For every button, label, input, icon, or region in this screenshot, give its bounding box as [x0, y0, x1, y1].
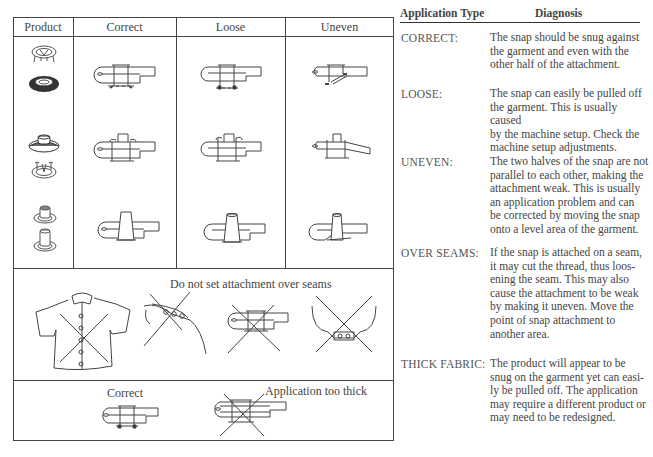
post-snap-stud-icon [32, 204, 58, 224]
text-line: the garment. This is usually caused [490, 101, 650, 128]
text-line: may need to be redesigned. [490, 411, 650, 425]
type-uneven: UNEVEN: [401, 156, 453, 168]
post-snap-post-icon [32, 228, 58, 252]
text-line: an application problem and can [490, 196, 650, 210]
uneven-post-snap-diagram [305, 214, 375, 246]
type-over-seams: OVER SEAMS: [401, 247, 479, 259]
sport-snap-prong-icon [30, 44, 58, 64]
loose-ring-snap-diagram [196, 134, 266, 164]
text-line: other half of the attachment. [490, 58, 650, 72]
text-line: by the machine setup. Check the [490, 128, 650, 142]
column-header-diagnosis: Diagnosis [535, 7, 582, 19]
diagnosis-thick-fabric: The product will appear to be snug on th… [490, 357, 650, 425]
seams-section-divider [13, 268, 394, 269]
thick-correct-diagram [96, 404, 166, 434]
loose-column-divider [285, 17, 286, 268]
seam-profile-crossed-diagram [310, 292, 378, 356]
text-line: onto a level area of the garment. [490, 223, 650, 237]
diagnosis-loose: The snap can easily be pulled off the ga… [490, 87, 650, 155]
diagnosis-correct: The snap should be snug against the garm… [490, 31, 650, 72]
ring-snap-prong-icon [30, 158, 58, 180]
column-header-product: Product [13, 20, 73, 35]
text-line: snug on the garment yet can easi- [490, 371, 650, 385]
text-line: ly be pulled off. The application [490, 384, 650, 398]
thick-section-divider [13, 380, 394, 381]
text-line: another area. [490, 328, 650, 342]
text-line: If the snap is attached on a seam, [490, 246, 650, 260]
column-header-correct: Correct [73, 20, 176, 35]
text-line: attachment weak. This is usually [490, 182, 650, 196]
product-column-divider [73, 17, 74, 268]
correct-sport-snap-diagram [90, 64, 160, 92]
text-line: point of snap attachment to [490, 314, 650, 328]
text-line: may require a different product or [490, 398, 650, 412]
correct-column-divider [176, 17, 177, 268]
loose-sport-snap-diagram [196, 64, 266, 94]
text-line: The two halves of the snap are not [490, 155, 650, 169]
text-line: cause the attachment to be weak [490, 287, 650, 301]
text-line: it may cut the thread, thus loos- [490, 260, 650, 274]
diagnosis-uneven: The two halves of the snap are not paral… [490, 155, 650, 237]
correct-post-snap-diagram [94, 212, 164, 244]
diagnosis-over-seams: If the snap is attached on a seam, it ma… [490, 246, 650, 341]
shirt-over-seams-diagram [32, 290, 132, 372]
diagnosis-header-rule [400, 22, 640, 23]
ring-snap-stud-icon [28, 134, 60, 154]
seam-snap-crossed-diagram [224, 305, 294, 355]
type-loose: LOOSE: [401, 88, 442, 100]
text-line: parallel to each other, making the [490, 169, 650, 183]
loose-post-snap-diagram [200, 214, 270, 246]
seam-detail-crossed-diagram [142, 290, 212, 358]
text-line: The snap should be snug against [490, 31, 650, 45]
text-line: the garment and even with the [490, 45, 650, 59]
text-line: by making it uneven. Move the [490, 300, 650, 314]
column-header-uneven: Uneven [285, 20, 394, 35]
type-thick-fabric: THICK FABRIC: [401, 358, 486, 370]
text-line: be corrected by moving the snap [490, 209, 650, 223]
header-divider [13, 36, 394, 37]
text-line: machine setup adjustments. [490, 141, 650, 155]
thick-wrong-crossed-diagram [208, 392, 288, 438]
text-line: ening the seam. This may also [490, 273, 650, 287]
text-line: The snap can easily be pulled off [490, 87, 650, 101]
type-correct: CORRECT: [401, 32, 458, 44]
thick-correct-label: Correct [107, 386, 143, 401]
text-line: The product will appear to be [490, 357, 650, 371]
column-header-application-type: Application Type [400, 7, 484, 19]
sport-snap-socket-icon [28, 74, 60, 94]
uneven-sport-snap-diagram [305, 64, 375, 94]
column-header-loose: Loose [176, 20, 285, 35]
correct-ring-snap-diagram [90, 134, 160, 164]
uneven-ring-snap-diagram [305, 134, 375, 164]
